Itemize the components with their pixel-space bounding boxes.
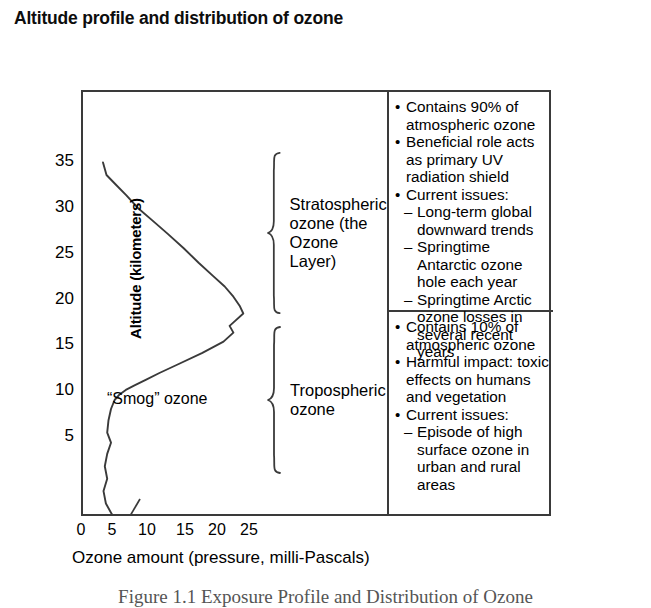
x-tick-20: 20 bbox=[208, 522, 226, 538]
tropospheric-brace-label: Tropospheric ozone bbox=[290, 381, 386, 419]
x-axis-title: Ozone amount (pressure, milli-Pascals) bbox=[72, 548, 370, 568]
figure-frame: “Smog” ozone Stratospheric ozone (the Oz… bbox=[81, 90, 551, 516]
bullet-label: Harmful impact: toxic effects on humans … bbox=[406, 353, 549, 406]
x-tick-15: 15 bbox=[176, 522, 194, 538]
bullet-marker: • bbox=[395, 406, 406, 424]
sub-bullet-label: Springtime Antarctic ozone hole each yea… bbox=[417, 238, 549, 291]
stratospheric-info-panel: • Contains 90% of atmospheric ozone • Be… bbox=[389, 92, 553, 310]
y-tick-15: 15 bbox=[40, 335, 74, 352]
bullet-label: Contains 90% of atmospheric ozone bbox=[406, 98, 549, 133]
bullet-item: • Beneficial role acts as primary UV rad… bbox=[395, 133, 549, 186]
curly-brace-icon bbox=[266, 149, 286, 317]
sub-bullet-label: Long-term global downward trends bbox=[417, 203, 549, 238]
x-tick-25: 25 bbox=[240, 522, 258, 538]
sub-bullet-item: – Long-term global downward trends bbox=[395, 203, 549, 238]
sub-bullet-label: Episode of high surface ozone in urban a… bbox=[417, 423, 549, 493]
x-tick-0: 0 bbox=[77, 522, 86, 538]
figure-title: Altitude profile and distribution of ozo… bbox=[14, 8, 343, 29]
bullet-marker: • bbox=[395, 186, 406, 204]
bullet-item: • Contains 90% of atmospheric ozone bbox=[395, 98, 549, 133]
bullet-marker: • bbox=[395, 133, 406, 151]
bullet-item: • Contains 10% of atmospheric ozone bbox=[395, 318, 549, 353]
bullet-label: Contains 10% of atmospheric ozone bbox=[406, 318, 549, 353]
tropospheric-brace-group: Tropospheric ozone bbox=[266, 325, 386, 475]
bullet-label: Beneficial role acts as primary UV radia… bbox=[406, 133, 549, 186]
stratospheric-brace-group: Stratospheric ozone (the Ozone Layer) bbox=[266, 149, 387, 317]
bullet-item: • Current issues: bbox=[395, 186, 549, 204]
y-tick-20: 20 bbox=[40, 290, 74, 307]
bullet-marker: • bbox=[395, 353, 406, 371]
bullet-label: Current issues: bbox=[406, 186, 549, 204]
bullet-item: • Current issues: bbox=[395, 406, 549, 424]
x-axis: 0 5 10 15 20 25 Ozone amount (pressure, … bbox=[81, 522, 411, 582]
y-axis-title: Altitude (kilometers) bbox=[127, 169, 144, 369]
bullet-label: Current issues: bbox=[406, 406, 549, 424]
smog-ozone-annotation: “Smog” ozone bbox=[107, 390, 208, 408]
sub-bullet-marker: – bbox=[404, 291, 417, 309]
sub-bullet-item: – Springtime Antarctic ozone hole each y… bbox=[395, 238, 549, 291]
y-tick-35: 35 bbox=[40, 152, 74, 169]
y-tick-10: 10 bbox=[40, 381, 74, 398]
x-tick-10: 10 bbox=[138, 522, 156, 538]
sub-bullet-item: – Episode of high surface ozone in urban… bbox=[395, 423, 549, 493]
y-tick-25: 25 bbox=[40, 244, 74, 261]
figure-caption: Figure 1.1 Exposure Profile and Distribu… bbox=[0, 586, 651, 608]
sub-bullet-marker: – bbox=[404, 203, 417, 221]
sub-bullet-marker: – bbox=[404, 423, 417, 441]
bullet-item: • Harmful impact: toxic effects on human… bbox=[395, 353, 549, 406]
sub-bullet-marker: – bbox=[404, 238, 417, 256]
tropospheric-info-panel: • Contains 10% of atmospheric ozone • Ha… bbox=[389, 312, 553, 516]
bullet-marker: • bbox=[395, 98, 406, 116]
ozone-plot-area: “Smog” ozone Stratospheric ozone (the Oz… bbox=[83, 92, 387, 514]
stratospheric-brace-label: Stratospheric ozone (the Ozone Layer) bbox=[290, 195, 388, 271]
bullet-marker: • bbox=[395, 318, 406, 336]
y-tick-30: 30 bbox=[40, 198, 74, 215]
curly-brace-icon bbox=[266, 325, 286, 475]
x-tick-5: 5 bbox=[108, 522, 117, 538]
y-tick-5: 5 bbox=[40, 427, 74, 444]
